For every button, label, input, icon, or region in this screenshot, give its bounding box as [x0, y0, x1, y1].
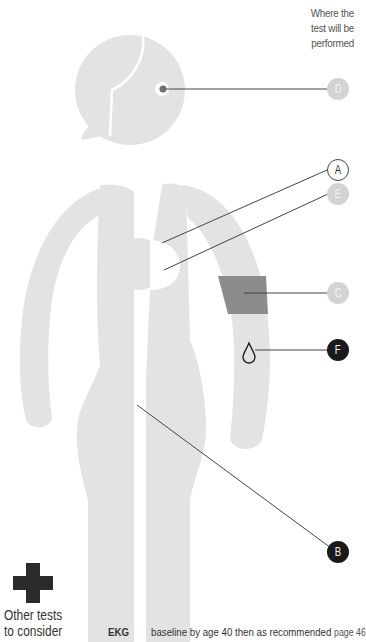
test-name: EKG [108, 626, 129, 638]
page-reference[interactable]: page 46 [334, 627, 366, 638]
callout-b-label: B [335, 545, 341, 559]
test-description: baseline by age 40 then as recommended [151, 626, 331, 638]
other-tests-label-1: Other tests [4, 607, 55, 623]
other-test-row: EKG baseline by age 40 then as recommend… [108, 626, 366, 638]
callout-c-label: C [335, 286, 342, 300]
other-tests: Other tests to consider [4, 563, 64, 639]
callout-a[interactable]: A [327, 159, 349, 181]
callout-f[interactable]: F [327, 339, 349, 361]
callout-b[interactable]: B [327, 541, 349, 563]
callout-f-label: F [335, 343, 341, 357]
upper-arm-band [218, 276, 268, 314]
where-performed-note: Where the test will be performed [299, 6, 354, 51]
callout-e[interactable]: E [327, 183, 349, 205]
callout-d-label: D [335, 82, 342, 96]
callout-a-label: A [335, 163, 341, 177]
other-tests-label-2: to consider [4, 623, 55, 639]
callout-e-label: E [335, 187, 341, 201]
eye-marker-dot [160, 86, 167, 93]
plus-icon [13, 563, 53, 603]
callout-d[interactable]: D [327, 78, 349, 100]
callout-c[interactable]: C [327, 282, 349, 304]
